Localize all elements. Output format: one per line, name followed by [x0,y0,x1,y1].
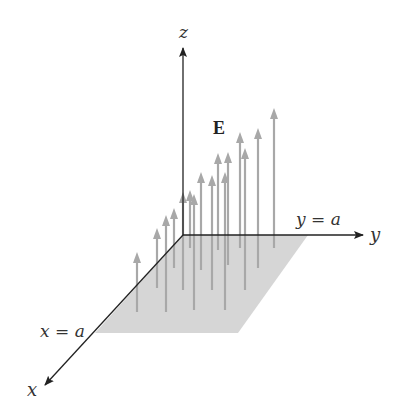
y-bound-label: y = a [296,209,341,229]
diagram-canvas [0,0,402,418]
x-bound-label: x = a [40,321,85,341]
field-arrow [270,108,278,248]
vector-field-diagram: z y x y = a x = a E [0,0,402,418]
field-label-E: E [213,118,225,139]
z-axis-label: z [179,22,188,42]
y-axis-label: y [370,224,380,245]
field-arrow [236,132,244,248]
x-axis-label: x [27,379,37,400]
